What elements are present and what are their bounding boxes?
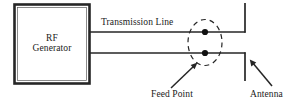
feed-point-lower-dot [202, 50, 208, 56]
rf-generator-label-line2: Generator [16, 44, 88, 54]
rf-antenna-diagram: RF Generator Transmission Line Feed Poin… [0, 0, 303, 109]
antenna-label: Antenna [250, 90, 283, 100]
feed-point-arrow [171, 63, 198, 88]
feed-point-highlight-ellipse [188, 20, 222, 66]
transmission-line-label: Transmission Line [101, 18, 173, 28]
rf-generator-label: RF Generator [16, 34, 88, 54]
antenna-arrow [250, 59, 272, 86]
feed-point-upper-dot [202, 29, 208, 35]
feed-point-label: Feed Point [151, 90, 193, 100]
